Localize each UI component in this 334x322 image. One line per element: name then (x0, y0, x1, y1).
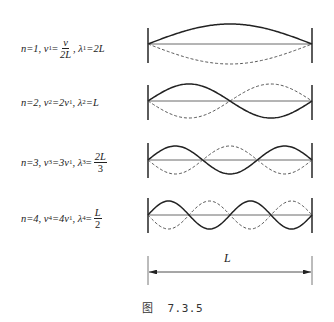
caption-prefix: 图 (142, 302, 154, 315)
displacement-solid-curve (148, 24, 312, 44)
mode-2-string (148, 84, 312, 120)
standing-wave-diagram (0, 0, 334, 322)
figure-caption: 图7.3.5 (142, 299, 203, 315)
length-label: L (224, 251, 231, 266)
displacement-dashed-curve (148, 44, 312, 64)
mode-1-string (148, 24, 312, 64)
caption-number: 7.3.5 (168, 302, 204, 315)
string-modes (148, 24, 312, 233)
mode-3-string (148, 143, 312, 178)
mode-4-string (148, 198, 312, 233)
